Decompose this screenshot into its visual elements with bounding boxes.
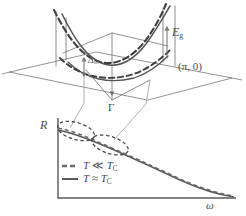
eg-arrow [164,26,169,58]
band-structure-group [2,4,242,100]
legend-tc-sub-2: C [107,178,112,186]
guide-line-delta-sc [70,76,84,128]
band-well-projection [86,70,150,100]
label-pi-zero: (π, 0) [178,60,202,72]
band-dashed-lower [60,50,170,78]
guide-line-eg [114,80,150,140]
legend-tc-sub: C [113,165,118,173]
physics-schematic-figure: Eg (π, 0) Δsc Γ R ω T ≪ TC T ≈ TC [0,0,246,216]
legend-swatches [62,166,78,179]
label-delta-sc: Δsc [88,55,99,65]
label-gamma: Γ [108,101,114,113]
legend-item-t-approx: T ≈ TC [83,172,112,186]
label-eg-sub: g [179,31,183,40]
label-delta-sc-sub: sc [94,58,99,65]
plane-edge-right [232,78,242,80]
label-eg: Eg [172,25,183,40]
figure-canvas [0,0,246,216]
label-y-axis-r: R [40,118,47,133]
label-x-axis-omega: ω [206,199,214,211]
legend-item-t-much-less: T ≪ TC [83,159,118,173]
plot-axes [58,118,236,198]
legend-relation-symbol: ≪ [92,159,104,171]
plane-edge-left [2,72,10,74]
gamma-marker [110,92,115,96]
spectrum-plot-group [55,118,236,198]
